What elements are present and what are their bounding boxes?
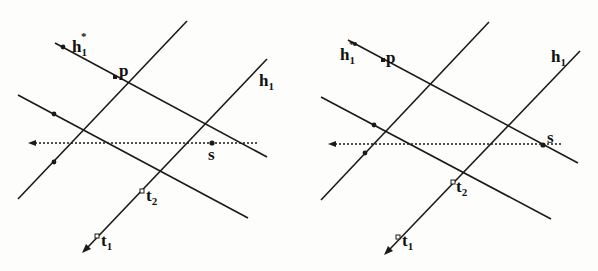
line-h1-star — [55, 43, 267, 157]
arrowhead-left-icon — [328, 141, 336, 147]
label-p: p — [119, 61, 128, 80]
left-panel: h1* p h1 s t2 t1 — [18, 21, 274, 253]
label-s: s — [547, 128, 554, 147]
point-h1-star — [61, 45, 66, 50]
point-left-line — [52, 160, 57, 165]
diagram-svg: h1* p h1 s t2 t1 h1* p h1 s t2 t1 — [0, 0, 598, 271]
label-s: s — [208, 145, 215, 164]
point-lower-line — [52, 112, 57, 117]
label-t2: t2 — [456, 177, 468, 198]
label-t2: t2 — [146, 186, 158, 207]
point-p — [381, 58, 385, 62]
label-t1: t1 — [402, 231, 413, 252]
point-t1 — [95, 234, 99, 238]
point-s — [540, 142, 545, 147]
point-left-line — [363, 151, 368, 156]
arrowhead-left-icon — [28, 140, 36, 146]
right-panel: h1* p h1 s t2 t1 — [321, 22, 580, 255]
line-h1 — [88, 59, 267, 247]
point-lower-line — [372, 123, 377, 128]
label-h1: h1 — [259, 71, 274, 92]
label-h1-star: h1* — [340, 38, 355, 66]
point-t2 — [140, 189, 144, 193]
point-p — [113, 75, 117, 79]
point-t2 — [451, 180, 455, 184]
label-h1: h1 — [551, 47, 566, 68]
label-h1-star: h1* — [72, 30, 87, 58]
label-p: p — [386, 48, 395, 67]
label-t1: t1 — [101, 231, 112, 252]
point-t1 — [396, 235, 400, 239]
diagram-canvas: h1* p h1 s t2 t1 h1* p h1 s t2 t1 — [0, 0, 598, 271]
line-h1 — [390, 51, 580, 249]
